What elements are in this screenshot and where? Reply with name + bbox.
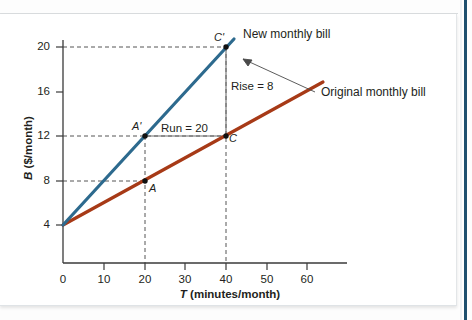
- point-label-C-prime: C': [214, 31, 224, 43]
- y-axis-title: B ($/month): [22, 98, 34, 198]
- x-axis-title-unit: (minutes/month): [190, 288, 280, 300]
- y-axis-title-symbol: B: [22, 172, 34, 180]
- annotation-run: Run = 20: [161, 122, 208, 134]
- series-line-new-monthly-bill: [63, 39, 234, 225]
- x-tick-label-60: 60: [295, 273, 319, 285]
- data-point-markers: [142, 44, 228, 183]
- point-label-C: C: [229, 132, 237, 144]
- marker-C-prime: [223, 44, 228, 49]
- figure-panel: 20 16 12 8 4 0 10 20 30 40 50 60 B ($/mo…: [0, 14, 457, 306]
- page-right-margin-bar: [464, 0, 467, 320]
- series-line-original-monthly-bill: [63, 82, 323, 225]
- annotation-rise: Rise = 8: [231, 80, 274, 92]
- x-tick-label-10: 10: [92, 273, 116, 285]
- series-label-new-monthly-bill: New monthly bill: [243, 27, 330, 41]
- page-right-margin-inner: [460, 0, 462, 320]
- x-ticks: [104, 263, 307, 270]
- y-tick-label-16: 16: [18, 85, 50, 97]
- y-tick-label-20: 20: [18, 40, 50, 52]
- series-label-original-monthly-bill: Original monthly bill: [321, 85, 426, 99]
- x-tick-label-20: 20: [133, 273, 157, 285]
- marker-A: [142, 178, 147, 183]
- point-label-A: A: [149, 182, 156, 194]
- marker-C: [223, 133, 228, 138]
- y-tick-label-4: 4: [18, 218, 50, 230]
- y-ticks: [56, 47, 63, 225]
- x-tick-label-40: 40: [214, 273, 238, 285]
- x-tick-label-0: 0: [51, 273, 75, 285]
- axes: [63, 40, 347, 263]
- y-axis-title-unit: ($/month): [22, 116, 34, 168]
- x-tick-label-30: 30: [173, 273, 197, 285]
- x-tick-label-50: 50: [255, 273, 279, 285]
- x-axis-title: T (minutes/month): [100, 288, 360, 300]
- marker-A-prime: [142, 133, 147, 138]
- point-label-A-prime: A': [132, 120, 141, 132]
- x-axis-title-symbol: T: [180, 288, 187, 300]
- plot-area: 20 16 12 8 4 0 10 20 30 40 50 60 B ($/mo…: [0, 14, 456, 305]
- chart-svg: [0, 14, 456, 305]
- dashed-guides: [63, 47, 226, 263]
- leader-arrowhead-original-monthly-bill: [243, 59, 252, 66]
